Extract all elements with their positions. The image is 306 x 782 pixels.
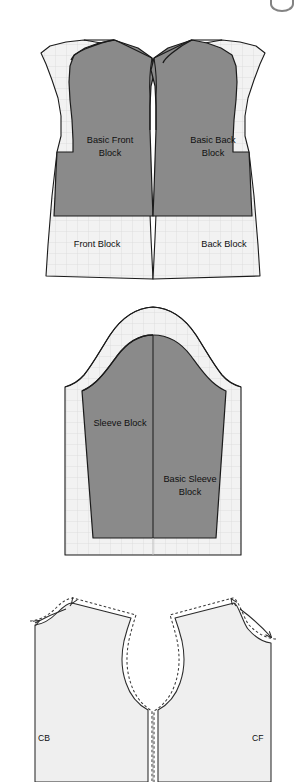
label-basic-front-block-line1: Basic Front (87, 135, 134, 145)
label-basic-back-block-line1: Basic Back (190, 135, 236, 145)
label-centre-back: CB (38, 733, 50, 743)
label-centre-front: CF (252, 733, 263, 743)
figure-bodice-blocks: Basic Front Block Basic Back Block Front… (0, 0, 306, 290)
label-basic-sleeve-block-line2: Block (179, 487, 202, 497)
pattern-diagram-page: Basic Front Block Basic Back Block Front… (0, 0, 306, 782)
figure-sleeve-blocks: Sleeve Block Basic Sleeve Block (0, 290, 306, 565)
label-front-block: Front Block (74, 239, 121, 249)
figure-neckline-adjustment: CB CF (0, 565, 306, 782)
label-back-block: Back Block (201, 239, 247, 249)
label-basic-front-block-line2: Block (99, 148, 122, 158)
label-basic-back-block-line2: Block (202, 148, 225, 158)
label-basic-sleeve-block-line1: Basic Sleeve (163, 474, 216, 484)
label-sleeve-block: Sleeve Block (93, 418, 147, 428)
